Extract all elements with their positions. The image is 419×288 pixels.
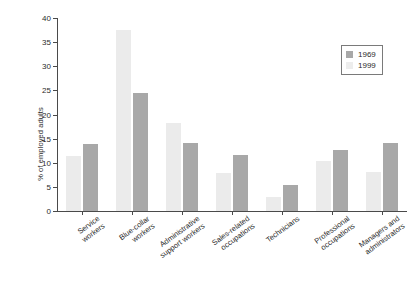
bar-1969 — [316, 161, 331, 211]
bar-1999 — [283, 185, 298, 211]
y-tick-label: 25 — [42, 86, 51, 95]
bar-1999 — [233, 155, 248, 211]
legend-swatch-icon-1999 — [346, 62, 353, 69]
bar-group — [257, 18, 307, 211]
y-tick-label: 10 — [42, 158, 51, 167]
bar-1999 — [333, 150, 348, 211]
bar-1969 — [166, 123, 181, 211]
y-tick-label: 20 — [42, 110, 51, 119]
y-tick-label: 40 — [42, 14, 51, 23]
bar-1969 — [216, 173, 231, 211]
bar-group — [157, 18, 207, 211]
bar-1969 — [116, 30, 131, 211]
y-tick-label: 0 — [47, 207, 51, 216]
y-tick-label: 5 — [47, 182, 51, 191]
bar-1969 — [266, 197, 281, 211]
bar-group — [57, 18, 107, 211]
bar-1999 — [183, 143, 198, 211]
bar-group — [207, 18, 257, 211]
bar-1999 — [383, 143, 398, 211]
legend-label-1969: 1969 — [358, 50, 376, 59]
bar-1969 — [66, 156, 81, 211]
y-tick-label: 35 — [42, 38, 51, 47]
bar-chart: % of employed adults 0510152025303540 Se… — [0, 0, 419, 288]
y-tick-label: 15 — [42, 134, 51, 143]
bar-1999 — [83, 144, 98, 211]
y-tick-label: 30 — [42, 62, 51, 71]
legend-label-1999: 1999 — [358, 61, 376, 70]
legend: 1969 1999 — [341, 45, 383, 75]
bar-1969 — [366, 172, 381, 211]
x-axis-labels: Service workersBlue-collar workersAdmini… — [57, 214, 407, 288]
bar-group — [107, 18, 157, 211]
legend-swatch-icon-1969 — [346, 51, 353, 58]
legend-item-1999: 1999 — [346, 60, 376, 71]
legend-item-1969: 1969 — [346, 49, 376, 60]
bar-1999 — [133, 93, 148, 211]
